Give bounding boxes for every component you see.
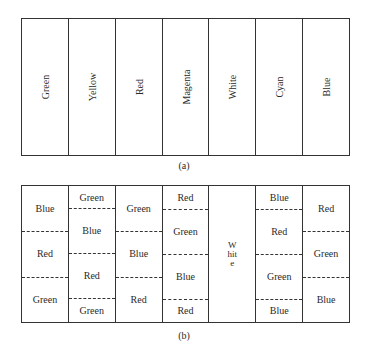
segment-label: Blue [116, 231, 162, 276]
segment-label: Blue [256, 186, 302, 209]
band-b-4: Red Green Blue Red [163, 186, 210, 322]
segment-label: Red [163, 299, 209, 322]
band-label: Blue [321, 78, 332, 97]
band-a-1: Green [22, 19, 69, 155]
band-a-7: Blue [303, 19, 349, 155]
segment-label: Red [69, 253, 115, 298]
segment-label: Green [163, 209, 209, 254]
band-label: Yellow [86, 73, 97, 101]
segment-label: Green [303, 231, 349, 276]
segment-label: Green [69, 298, 115, 322]
segment-label: Red [22, 231, 68, 276]
figure-a-strip: Green Yellow Red Magenta White Cyan Blue [21, 18, 350, 156]
band-label: Magenta [180, 70, 191, 105]
band-a-4: Magenta [163, 19, 210, 155]
caption-a: (a) [0, 160, 368, 171]
band-b-1: Blue Red Green [22, 186, 69, 322]
segment-label: Green [116, 186, 162, 231]
band-label: Cyan [274, 76, 285, 97]
segment-label: Green [22, 277, 68, 322]
segment-label: Green [69, 186, 115, 208]
band-a-6: Cyan [256, 19, 303, 155]
segment-label: Red [256, 209, 302, 254]
band-b-7: Red Green Blue [303, 186, 349, 322]
band-label: Green [39, 75, 50, 99]
vertical-label: White [227, 241, 237, 268]
band-b-6: Blue Red Green Blue [256, 186, 303, 322]
caption-b: (b) [0, 330, 368, 341]
segment-label: Blue [69, 208, 115, 253]
band-b-5: White [209, 186, 256, 322]
segment-label: Red [116, 277, 162, 322]
band-a-3: Red [116, 19, 163, 155]
segment-label: Red [163, 186, 209, 209]
segment-label: Red [303, 186, 349, 231]
band-label: White [227, 75, 238, 99]
band-a-5: White [209, 19, 256, 155]
band-b-3: Green Blue Red [116, 186, 163, 322]
segment-label: Green [256, 254, 302, 299]
segment-label: Blue [163, 254, 209, 299]
segment-label: Blue [256, 299, 302, 322]
band-b-2: Green Blue Red Green [69, 186, 116, 322]
segment-label: Blue [22, 186, 68, 231]
figure-b-strip: Blue Red Green Green Blue Red Green Gree… [21, 185, 350, 323]
band-label: Red [133, 79, 144, 95]
band-a-2: Yellow [69, 19, 116, 155]
segment-label: Blue [303, 277, 349, 322]
